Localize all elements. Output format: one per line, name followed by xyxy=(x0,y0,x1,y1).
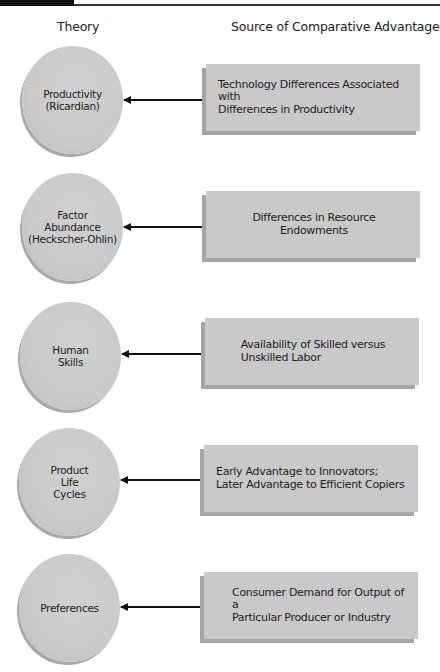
theory-label: Product Life Cycles xyxy=(51,464,89,500)
source-column-heading: Source of Comparative Advantage xyxy=(231,19,440,34)
arrow-left-icon xyxy=(121,479,203,481)
arrow-left-icon xyxy=(124,226,205,228)
source-box-skilled-labor: Availability of Skilled versus Unskilled… xyxy=(205,318,419,385)
source-label: Technology Differences Associated with D… xyxy=(218,79,410,117)
theory-node-factor-abundance: Factor Abundance (Heckscher-Ohlin) xyxy=(22,173,123,281)
theory-node-human-skills: Human Skills xyxy=(20,302,121,410)
source-label: Consumer Demand for Output of a Particul… xyxy=(216,587,408,625)
source-box-resource-endowments: Differences in Resource Endowments xyxy=(206,191,420,258)
source-box-consumer-demand: Consumer Demand for Output of a Particul… xyxy=(204,572,418,639)
source-label: Early Advantage to Innovators; Later Adv… xyxy=(216,466,404,491)
theory-node-preferences: Preferences xyxy=(19,554,120,662)
theory-node-product-life-cycles: Product Life Cycles xyxy=(19,428,120,536)
header-rule xyxy=(74,4,440,6)
arrow-left-icon xyxy=(122,353,204,355)
theory-label: Preferences xyxy=(40,602,98,614)
source-label: Availability of Skilled versus Unskilled… xyxy=(241,339,386,364)
header-bar-block xyxy=(0,0,74,6)
arrow-left-icon xyxy=(124,99,205,101)
theory-node-productivity: Productivity (Ricardian) xyxy=(22,46,123,154)
theory-label: Productivity (Ricardian) xyxy=(43,88,102,112)
theory-label: Human Skills xyxy=(52,344,88,368)
source-box-technology: Technology Differences Associated with D… xyxy=(206,64,420,131)
arrow-left-icon xyxy=(121,606,203,608)
theory-column-heading: Theory xyxy=(57,19,99,34)
source-label: Differences in Resource Endowments xyxy=(218,212,410,237)
source-box-innovators: Early Advantage to Innovators; Later Adv… xyxy=(204,445,418,512)
theory-label: Factor Abundance (Heckscher-Ohlin) xyxy=(28,209,117,245)
